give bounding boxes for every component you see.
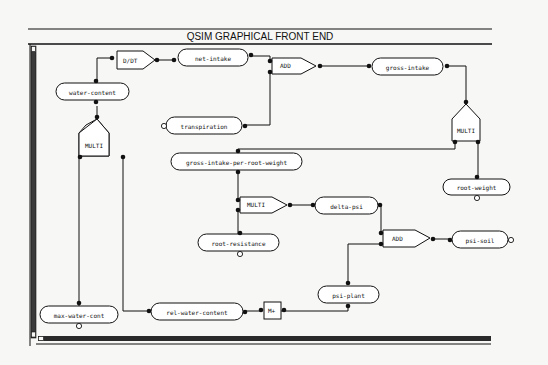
variable-root-resistance[interactable]: root-resistance — [198, 234, 279, 251]
operator-add-1[interactable]: ADD — [272, 58, 316, 74]
variable-transpiration[interactable]: transpiration — [166, 117, 242, 134]
variable-gross-intake-per-root-weight[interactable]: gross-intake-per-root-weight — [171, 153, 302, 170]
variable-net-intake-label: net-intake — [195, 55, 232, 62]
port-dot[interactable] — [236, 170, 241, 175]
port-dot[interactable] — [236, 149, 241, 154]
operator-multi-3[interactable]: MULTI — [240, 197, 287, 213]
port-dot[interactable] — [379, 231, 384, 236]
variable-delta-psi[interactable]: delta-psi — [315, 197, 378, 214]
qsim-window: QSIM GRAPHICAL FRONT END — [0, 0, 548, 365]
port-dot[interactable] — [288, 203, 293, 208]
port-dot[interactable] — [453, 140, 458, 145]
port-dot[interactable] — [268, 59, 273, 64]
port-dot[interactable] — [238, 231, 243, 236]
vertical-scrollbar[interactable] — [31, 46, 36, 338]
port-dot[interactable] — [155, 58, 160, 63]
operator-multi-1[interactable]: MULTI — [79, 119, 109, 156]
horizontal-scrollbar[interactable] — [36, 336, 491, 344]
variable-root-weight-label: root-weight — [457, 184, 497, 192]
port-dot[interactable] — [268, 70, 273, 75]
variable-delta-psi-label: delta-psi — [330, 203, 363, 211]
port-dot[interactable] — [318, 64, 323, 69]
port-dot[interactable] — [475, 175, 480, 180]
variable-water-content[interactable]: water-content — [56, 83, 129, 100]
port-dot[interactable] — [476, 140, 481, 145]
scroll-down-box[interactable] — [32, 332, 36, 337]
variable-gross-intake[interactable]: gross-intake — [372, 58, 443, 75]
scroll-left-box[interactable] — [39, 337, 44, 341]
operator-m-plus[interactable]: M+ — [264, 302, 281, 319]
window-title: QSIM GRAPHICAL FRONT END — [187, 31, 334, 42]
open-port-circle[interactable] — [161, 123, 166, 128]
port-dot[interactable] — [249, 53, 254, 58]
ports — [77, 53, 481, 315]
variable-transpiration-label: transpiration — [181, 123, 228, 131]
port-dot[interactable] — [94, 79, 99, 84]
port-dot[interactable] — [367, 64, 372, 69]
port-dot[interactable] — [236, 198, 241, 203]
open-port-circle[interactable] — [508, 237, 513, 242]
diagram-canvas: QSIM GRAPHICAL FRONT END — [0, 0, 548, 365]
port-dot[interactable] — [445, 64, 450, 69]
port-dot[interactable] — [431, 237, 436, 242]
port-dot[interactable] — [121, 155, 126, 160]
port-dot[interactable] — [311, 203, 316, 208]
variable-gross-intake-per-root-weight-label: gross-intake-per-root-weight — [186, 159, 288, 167]
port-dot[interactable] — [172, 58, 177, 63]
variable-psi-soil-label: psi-soil — [466, 237, 495, 245]
variable-root-resistance-label: root-resistance — [211, 240, 266, 247]
operator-m-plus-label: M+ — [268, 307, 276, 314]
port-dot[interactable] — [448, 238, 453, 243]
open-port-circle[interactable] — [237, 251, 242, 256]
variable-rel-water-content[interactable]: rel-water-content — [151, 303, 243, 320]
port-dot[interactable] — [282, 308, 287, 313]
scroll-up-box[interactable] — [32, 47, 36, 52]
operator-multi-1-label: MULTI — [85, 142, 103, 149]
open-port-circle[interactable] — [76, 323, 81, 328]
operator-add-2-label: ADD — [392, 235, 403, 242]
port-dot[interactable] — [243, 310, 248, 315]
variable-root-weight[interactable]: root-weight — [443, 179, 510, 195]
operator-multi-2[interactable]: MULTI — [452, 104, 480, 141]
port-dot[interactable] — [110, 56, 115, 61]
port-dot[interactable] — [259, 308, 264, 313]
port-dot[interactable] — [236, 208, 241, 213]
operator-add-2[interactable]: ADD — [383, 230, 430, 247]
variable-rel-water-content-label: rel-water-content — [166, 309, 228, 316]
port-dot[interactable] — [147, 309, 152, 314]
port-dot[interactable] — [78, 155, 83, 160]
variable-psi-soil[interactable]: psi-soil — [452, 231, 508, 248]
port-dot[interactable] — [77, 301, 82, 306]
variable-net-intake[interactable]: net-intake — [178, 49, 248, 66]
variable-max-water-cont-label: max-water-cont — [54, 312, 105, 319]
open-port-circle[interactable] — [474, 195, 479, 200]
operator-d-dt[interactable]: D/DT — [117, 51, 155, 69]
wires — [79, 56, 478, 311]
variable-psi-plant-label: psi-plant — [332, 292, 365, 300]
variable-water-content-label: water-content — [69, 89, 116, 96]
port-dot[interactable] — [95, 115, 100, 120]
port-dot[interactable] — [379, 242, 384, 247]
port-dot[interactable] — [346, 304, 351, 309]
variable-psi-plant[interactable]: psi-plant — [318, 286, 379, 303]
port-dot[interactable] — [94, 100, 99, 105]
variable-gross-intake-label: gross-intake — [386, 64, 430, 72]
port-dot[interactable] — [378, 203, 383, 208]
variable-max-water-cont[interactable]: max-water-cont — [40, 306, 118, 323]
port-dot[interactable] — [346, 281, 351, 286]
port-dot[interactable] — [243, 124, 248, 129]
operator-multi-3-label: MULTI — [247, 201, 265, 208]
operator-d-dt-label: D/DT — [123, 57, 138, 64]
operator-multi-2-label: MULTI — [457, 127, 475, 134]
operator-add-1-label: ADD — [280, 62, 291, 69]
port-dot[interactable] — [464, 100, 469, 105]
